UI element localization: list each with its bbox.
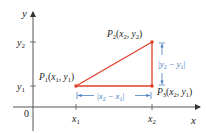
horizontal-distance-annotation: |x2 − x1| — [77, 91, 151, 102]
vertical-distance-annotation: |y2 − y1| — [158, 43, 185, 85]
point-p3 — [150, 84, 154, 88]
point-p1 — [74, 84, 78, 88]
y1-tick-label: y1 — [16, 81, 25, 94]
x-axis-label: x — [190, 114, 196, 126]
distance-formula-diagram: y x 0 y2 y1 x1 x2 P1(x1, y1) P2(x2, y2) … — [0, 0, 206, 133]
point-p2 — [150, 40, 154, 44]
origin-label: 0 — [24, 108, 29, 119]
y-axis-label: y — [21, 7, 27, 19]
horizontal-distance-label: |x2 − x1| — [97, 91, 124, 102]
p3-label: P3(x2, y1) — [156, 87, 192, 98]
p1-label: P1(x1, y1) — [38, 72, 74, 83]
x1-tick-label: x1 — [71, 113, 80, 126]
x2-tick-label: x2 — [147, 113, 156, 126]
right-triangle — [74, 40, 154, 88]
y2-tick-label: y2 — [16, 37, 25, 50]
p2-label: P2(x2, y2) — [106, 29, 142, 40]
hypotenuse — [76, 42, 152, 86]
vertical-distance-label: |y2 − y1| — [158, 59, 185, 70]
